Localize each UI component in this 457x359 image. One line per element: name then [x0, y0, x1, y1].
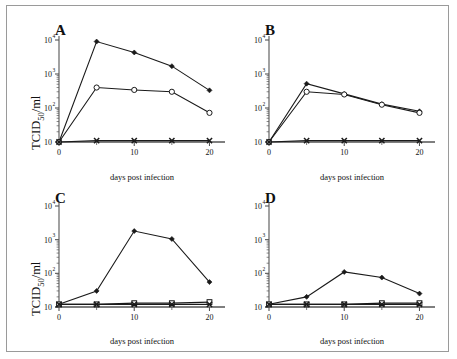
panel-c: C TCID50/ml days post infection 10102103… — [15, 184, 227, 349]
svg-text:3: 3 — [53, 232, 56, 238]
panel-d: D days post infection 1010210310401020 — [225, 184, 437, 349]
svg-text:10: 10 — [44, 70, 52, 79]
svg-text:0: 0 — [57, 313, 61, 322]
svg-text:10: 10 — [44, 36, 52, 45]
svg-text:10: 10 — [340, 313, 348, 322]
panel-c-plot: 1010210310401020 — [15, 184, 227, 349]
svg-text:10: 10 — [254, 104, 262, 113]
panel-a: A TCID50/ml days post infection 10102103… — [15, 14, 227, 184]
svg-text:10: 10 — [44, 303, 52, 312]
svg-text:2: 2 — [263, 101, 266, 107]
svg-text:10: 10 — [254, 202, 262, 211]
svg-text:0: 0 — [267, 313, 271, 322]
panel-d-plot: 1010210310401020 — [225, 184, 437, 349]
svg-text:3: 3 — [53, 67, 56, 73]
svg-text:20: 20 — [205, 313, 213, 322]
panel-b: B days post infection 1010210310401020 — [225, 14, 437, 184]
svg-text:3: 3 — [263, 232, 266, 238]
figure-frame: A TCID50/ml days post infection 10102103… — [6, 5, 449, 352]
panel-a-plot: 1010210310401020 — [15, 14, 227, 184]
svg-text:20: 20 — [415, 148, 423, 157]
svg-text:10: 10 — [254, 36, 262, 45]
svg-text:10: 10 — [254, 236, 262, 245]
svg-text:3: 3 — [263, 67, 266, 73]
svg-text:20: 20 — [205, 148, 213, 157]
svg-text:4: 4 — [263, 33, 266, 39]
svg-text:10: 10 — [44, 236, 52, 245]
svg-text:10: 10 — [44, 202, 52, 211]
svg-text:10: 10 — [44, 269, 52, 278]
svg-text:10: 10 — [130, 313, 138, 322]
svg-text:4: 4 — [53, 199, 56, 205]
svg-text:10: 10 — [130, 148, 138, 157]
svg-text:10: 10 — [340, 148, 348, 157]
panel-b-plot: 1010210310401020 — [225, 14, 437, 184]
svg-text:4: 4 — [53, 33, 56, 39]
svg-text:10: 10 — [254, 70, 262, 79]
svg-text:20: 20 — [415, 313, 423, 322]
svg-text:2: 2 — [263, 266, 266, 272]
svg-text:10: 10 — [44, 138, 52, 147]
svg-text:10: 10 — [254, 138, 262, 147]
svg-text:10: 10 — [44, 104, 52, 113]
svg-text:2: 2 — [53, 266, 56, 272]
svg-text:10: 10 — [254, 269, 262, 278]
svg-text:10: 10 — [254, 303, 262, 312]
svg-text:0: 0 — [267, 148, 271, 157]
svg-text:2: 2 — [53, 101, 56, 107]
svg-text:4: 4 — [263, 199, 266, 205]
svg-text:0: 0 — [57, 148, 61, 157]
